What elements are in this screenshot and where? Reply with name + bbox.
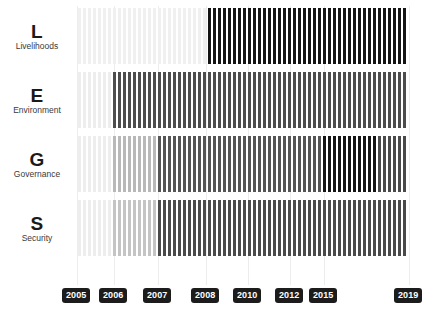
stripe bbox=[288, 8, 291, 64]
stripe bbox=[133, 200, 136, 256]
stripe bbox=[113, 8, 116, 64]
year-chip-2015[interactable]: 2015 bbox=[309, 288, 337, 303]
stripe bbox=[98, 200, 101, 256]
stripe bbox=[133, 8, 136, 64]
stripe bbox=[228, 72, 231, 128]
stripe bbox=[183, 200, 186, 256]
stripe bbox=[333, 72, 336, 128]
stripe bbox=[348, 72, 351, 128]
stripe bbox=[113, 72, 116, 128]
year-chip-2010[interactable]: 2010 bbox=[233, 288, 261, 303]
year-axis: 20052006200720082010201220152019 bbox=[0, 285, 439, 312]
stripe bbox=[253, 200, 256, 256]
stripe bbox=[233, 136, 236, 192]
stripe bbox=[383, 136, 386, 192]
stripe bbox=[173, 8, 176, 64]
stripe bbox=[118, 200, 121, 256]
stripe bbox=[153, 72, 156, 128]
stripe bbox=[313, 136, 316, 192]
stripe bbox=[193, 200, 196, 256]
stripe bbox=[188, 8, 191, 64]
stripe bbox=[358, 200, 361, 256]
stripe bbox=[323, 72, 326, 128]
stripe bbox=[198, 8, 201, 64]
stripe bbox=[273, 200, 276, 256]
stripe bbox=[378, 8, 381, 64]
stripe bbox=[103, 8, 106, 64]
year-chip-2019[interactable]: 2019 bbox=[394, 288, 422, 303]
stripe bbox=[393, 72, 396, 128]
stripe bbox=[238, 200, 241, 256]
stripe bbox=[83, 200, 86, 256]
stripe bbox=[348, 136, 351, 192]
stripe bbox=[88, 8, 91, 64]
stripe bbox=[268, 200, 271, 256]
stripe bbox=[388, 136, 391, 192]
stripe bbox=[158, 136, 161, 192]
stripe bbox=[163, 136, 166, 192]
stripe bbox=[128, 200, 131, 256]
year-chip-2012[interactable]: 2012 bbox=[275, 288, 303, 303]
row-livelihoods: LLivelihoods bbox=[0, 8, 439, 64]
stripe bbox=[178, 200, 181, 256]
stripe bbox=[108, 72, 111, 128]
stripe bbox=[228, 8, 231, 64]
stripe bbox=[258, 136, 261, 192]
stripe bbox=[323, 8, 326, 64]
stripe bbox=[253, 72, 256, 128]
stripe bbox=[343, 200, 346, 256]
stripe bbox=[168, 72, 171, 128]
year-chip-2007[interactable]: 2007 bbox=[143, 288, 171, 303]
stripe bbox=[403, 136, 406, 192]
stripe bbox=[213, 8, 216, 64]
stripe bbox=[293, 8, 296, 64]
stripe bbox=[398, 8, 401, 64]
stripe bbox=[363, 72, 366, 128]
stripe bbox=[378, 72, 381, 128]
stripe bbox=[273, 8, 276, 64]
stripe bbox=[333, 200, 336, 256]
stripe bbox=[383, 72, 386, 128]
stripe bbox=[88, 136, 91, 192]
stripe bbox=[193, 136, 196, 192]
stripe bbox=[298, 72, 301, 128]
row-name: Governance bbox=[14, 170, 60, 179]
bar-band-livelihoods bbox=[78, 8, 409, 64]
stripe bbox=[283, 136, 286, 192]
stripe bbox=[233, 72, 236, 128]
stripe bbox=[188, 136, 191, 192]
stripe bbox=[218, 136, 221, 192]
stripe bbox=[283, 8, 286, 64]
stripe bbox=[138, 136, 141, 192]
row-security: SSecurity bbox=[0, 200, 439, 256]
year-chip-2006[interactable]: 2006 bbox=[99, 288, 127, 303]
row-governance: GGovernance bbox=[0, 136, 439, 192]
stripe bbox=[143, 136, 146, 192]
stripe bbox=[183, 72, 186, 128]
year-chip-2005[interactable]: 2005 bbox=[62, 288, 90, 303]
stripe bbox=[243, 72, 246, 128]
stripe bbox=[143, 200, 146, 256]
stripe bbox=[278, 8, 281, 64]
stripe bbox=[373, 200, 376, 256]
stripe bbox=[248, 72, 251, 128]
stripe bbox=[338, 72, 341, 128]
stripe bbox=[388, 72, 391, 128]
stripe bbox=[268, 136, 271, 192]
stripe bbox=[173, 136, 176, 192]
stripe bbox=[183, 8, 186, 64]
stripe bbox=[258, 72, 261, 128]
stripe bbox=[358, 72, 361, 128]
row-letter: E bbox=[31, 86, 44, 105]
stripe bbox=[278, 200, 281, 256]
stripe bbox=[158, 200, 161, 256]
stripe bbox=[293, 136, 296, 192]
stripe bbox=[93, 8, 96, 64]
stripe bbox=[203, 8, 206, 64]
stripe bbox=[183, 136, 186, 192]
row-label-livelihoods: LLivelihoods bbox=[0, 8, 74, 64]
stripe bbox=[153, 8, 156, 64]
year-chip-2008[interactable]: 2008 bbox=[191, 288, 219, 303]
stripe bbox=[293, 200, 296, 256]
stripe bbox=[263, 136, 266, 192]
